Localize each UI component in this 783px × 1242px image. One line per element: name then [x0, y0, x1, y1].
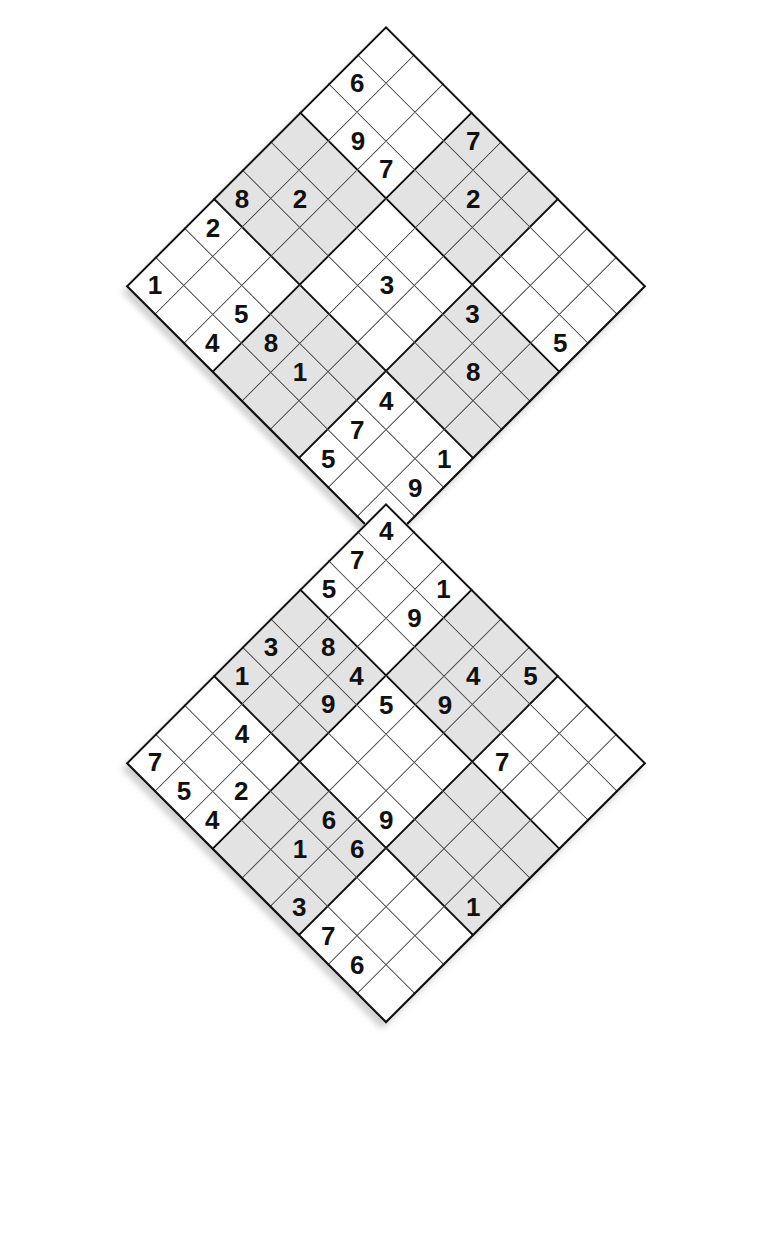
cell-value: 7 [495, 749, 509, 775]
cell-value: 7 [350, 547, 364, 573]
cell-value: 8 [466, 359, 480, 385]
cell-value: 5 [321, 446, 335, 472]
cell-value: 1 [437, 446, 451, 472]
cell-value: 6 [350, 952, 364, 978]
cell-value: 7 [350, 417, 364, 443]
cell-value: 6 [321, 807, 335, 833]
cell-value: 1 [466, 894, 480, 920]
cell-value: 4 [205, 807, 219, 833]
cell-value: 8 [235, 185, 249, 211]
cell-value: 9 [408, 605, 422, 631]
cell-value: 9 [379, 807, 393, 833]
cell-value: 9 [350, 128, 364, 154]
cell-value: 6 [350, 836, 364, 862]
lower-sudoku-grid[interactable]: 4157945978453919146621754376 [126, 503, 646, 1023]
upper-grid-cells: 7629753238824158179145 [126, 26, 646, 546]
cell-value: 1 [235, 662, 249, 688]
cell-value: 9 [408, 475, 422, 501]
cell-value: 7 [148, 749, 162, 775]
cell-value: 2 [234, 778, 248, 804]
cell-value: 2 [466, 186, 480, 212]
cell-value: 4 [234, 721, 248, 747]
cell-value: 4 [379, 518, 393, 544]
cell-value: 4 [350, 662, 364, 688]
cell-value: 5 [553, 330, 567, 356]
cell-value: 3 [292, 894, 306, 920]
cell-value: 4 [466, 663, 480, 689]
cell-value: 7 [379, 156, 393, 182]
cell-value: 7 [466, 128, 480, 154]
cell-value: 9 [321, 691, 335, 717]
cell-value: 6 [350, 70, 364, 96]
cell-value: 7 [321, 923, 335, 949]
cell-value: 4 [379, 388, 393, 414]
cell-value: 3 [263, 634, 277, 660]
cell-value: 1 [148, 272, 162, 298]
cell-value: 2 [206, 215, 220, 241]
cell-value: 5 [177, 778, 191, 804]
cell-value: 4 [205, 330, 219, 356]
cell-value: 8 [263, 330, 277, 356]
cell-value: 2 [292, 186, 306, 212]
cell-value: 1 [292, 359, 306, 385]
lower-grid-cells: 4157945978453919146621754376 [126, 503, 646, 1023]
cell-value: 1 [436, 576, 450, 602]
cell-value: 9 [437, 691, 451, 717]
sudoku-canvas: 7629753238824158179145 41579459784539191… [0, 0, 783, 1242]
upper-sudoku-grid[interactable]: 7629753238824158179145 [126, 26, 646, 546]
cell-value: 3 [466, 301, 480, 327]
cell-value: 5 [234, 301, 248, 327]
cell-value: 5 [523, 662, 537, 688]
cell-value: 8 [321, 634, 335, 660]
cell-value: 5 [322, 576, 336, 602]
cell-value: 1 [292, 836, 306, 862]
cell-value: 5 [379, 692, 393, 718]
cell-value: 3 [379, 272, 393, 298]
